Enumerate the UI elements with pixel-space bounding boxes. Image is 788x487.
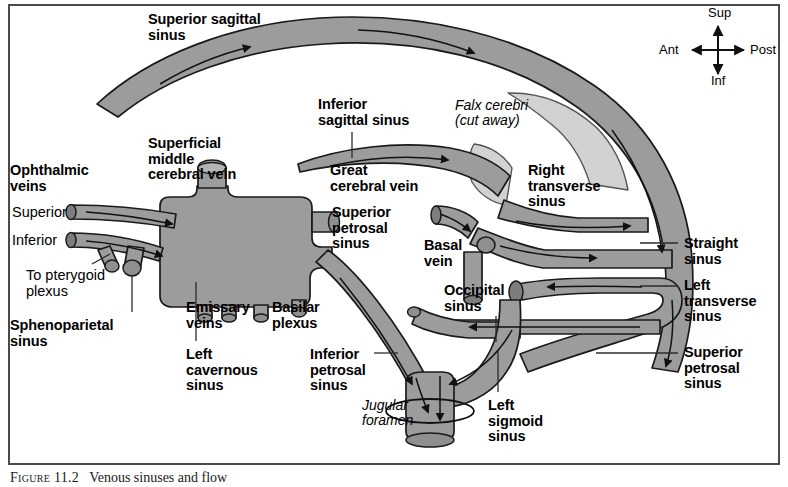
label-great-cerebral-vein: Great cerebral vein — [330, 163, 418, 194]
label-occipital-sinus: Occipital sinus — [444, 283, 504, 314]
label-to-pterygoid-plexus: To pterygoid plexus — [26, 268, 105, 299]
figure-caption-text: Venous sinuses and flow — [89, 470, 227, 485]
label-superior-petrosal-sinus-right: Superior petrosal sinus — [684, 345, 743, 392]
label-inferior-petrosal-sinus: Inferior petrosal sinus — [310, 347, 366, 394]
figure-border — [8, 4, 780, 465]
compass-label-sup: Sup — [708, 6, 731, 20]
label-right-transverse-sinus: Right transverse sinus — [528, 163, 600, 210]
label-falx-cerebri: Falx cerebri (cut away) — [455, 98, 528, 128]
label-left-cavernous-sinus: Left cavernous sinus — [186, 347, 258, 394]
label-basal-vein: Basal vein — [424, 238, 462, 269]
label-ophthalmic-veins: Ophthalmic veins — [10, 163, 89, 194]
label-ophthalmic-superior: Superior — [12, 205, 67, 221]
compass-label-inf: Inf — [711, 74, 725, 88]
compass-label-ant: Ant — [659, 43, 679, 57]
label-superior-sagittal-sinus: Superior sagittal sinus — [148, 12, 261, 43]
label-superior-petrosal-sinus-left: Superior petrosal sinus — [332, 205, 391, 252]
label-left-sigmoid-sinus: Left sigmoid sinus — [488, 398, 543, 445]
figure-page: Sup Inf Ant Post Superior sagittal sinus… — [0, 0, 788, 487]
label-jugular-foramen: Jugular foramen — [362, 398, 413, 428]
label-ophthalmic-inferior: Inferior — [12, 233, 57, 249]
label-inferior-sagittal-sinus: Inferior sagittal sinus — [318, 97, 409, 128]
label-superficial-middle-cerebral-vein: Superficial middle cerebral vein — [148, 136, 236, 183]
figure-caption: Figure 11.2Venous sinuses and flow — [10, 470, 780, 487]
label-straight-sinus: Straight sinus — [684, 236, 738, 267]
figure-number: Figure 11.2 — [10, 470, 79, 485]
label-emissary-veins: Emissary veins — [186, 300, 250, 331]
compass-label-post: Post — [750, 43, 776, 57]
label-left-transverse-sinus: Left transverse sinus — [684, 278, 756, 325]
label-sphenoparietal-sinus: Sphenoparietal sinus — [10, 318, 113, 349]
label-basilar-plexus: Basilar plexus — [272, 300, 320, 331]
